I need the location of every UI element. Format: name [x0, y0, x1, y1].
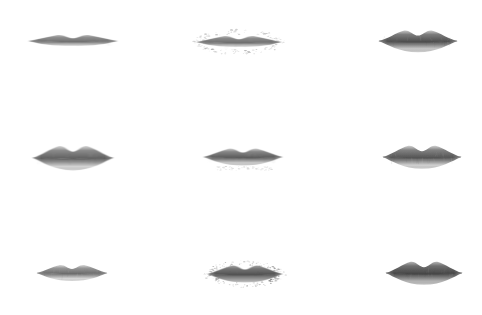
lips-cell-r2c3 [382, 140, 462, 176]
lips-icon [36, 258, 108, 290]
lips-icon [382, 140, 462, 176]
lips-cell-r3c2 [207, 258, 283, 292]
edge-falloff [195, 138, 291, 179]
edge-falloff [370, 22, 466, 63]
lips-icon [28, 26, 118, 58]
lips-icon [32, 140, 114, 178]
edge-falloff [19, 23, 127, 61]
lips-cell-r2c2 [203, 141, 283, 175]
lips-cell-r3c1 [36, 258, 108, 290]
lips-cell-r1c3 [378, 25, 458, 59]
edge-falloff [29, 255, 115, 293]
lips-icon [378, 25, 458, 59]
lips-icon [203, 141, 283, 175]
edge-falloff [199, 255, 290, 296]
edge-falloff [374, 136, 470, 179]
edge-falloff [24, 136, 122, 182]
lips-icon [385, 256, 463, 292]
lips-icon [196, 27, 282, 59]
lips-icon [207, 258, 283, 292]
lips-cell-r3c3 [385, 256, 463, 292]
lips-grid [0, 0, 482, 315]
edge-falloff [377, 252, 471, 295]
lips-cell-r2c1 [32, 140, 114, 178]
lips-cell-r1c2 [196, 27, 282, 59]
edge-falloff [187, 24, 290, 62]
lips-cell-r1c1 [28, 26, 118, 58]
